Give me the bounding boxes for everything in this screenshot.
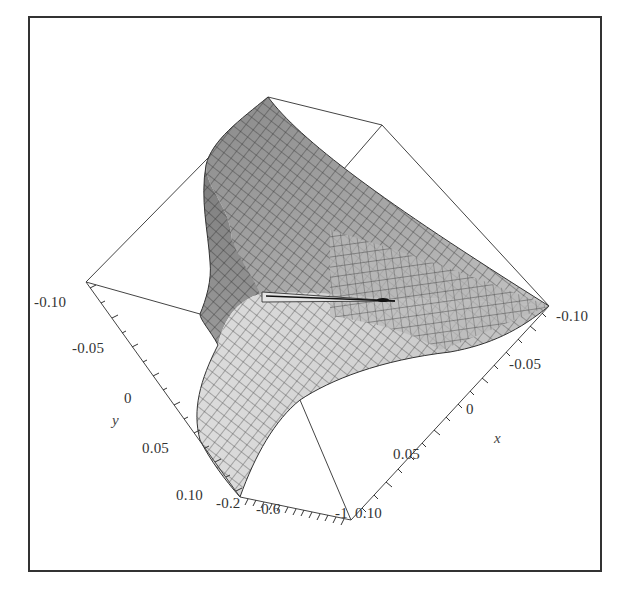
x-axis-label: x	[494, 430, 501, 447]
x-tick-label: 0.10	[355, 505, 382, 522]
z-tick-label: -0.6	[256, 501, 281, 518]
y-tick-label: -0.10	[34, 294, 66, 311]
z-tick-label: -0.2	[216, 495, 241, 512]
x-tick-label: -0.10	[556, 308, 588, 325]
y-tick-label: 0.10	[176, 487, 203, 504]
z-tick-label: -1	[335, 505, 348, 522]
y-tick-label: -0.05	[72, 340, 104, 357]
x-tick-label: 0	[466, 401, 474, 418]
y-axis-label: y	[112, 412, 119, 429]
y-tick-label: 0	[124, 390, 132, 407]
x-tick-label: -0.05	[509, 356, 541, 373]
surface-plot-3d	[0, 0, 621, 591]
x-tick-label: 0.05	[393, 446, 420, 463]
y-tick-label: 0.05	[142, 440, 169, 457]
